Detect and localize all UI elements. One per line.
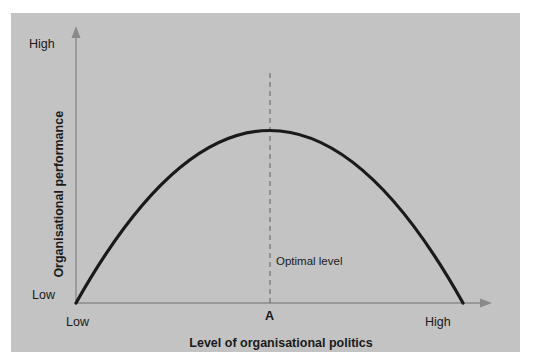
y-axis-low-label: Low — [32, 289, 55, 302]
chart-plot-area — [11, 13, 520, 352]
optimal-level-annotation: Optimal level — [276, 256, 342, 268]
optimal-point-label: A — [265, 310, 274, 323]
y-axis-title: Organisational performance — [53, 94, 66, 294]
x-axis-low-label: Low — [66, 316, 89, 329]
y-axis-high-label: High — [29, 38, 55, 51]
x-axis-title: Level of organisational politics — [161, 337, 401, 350]
y-axis-arrow-icon — [72, 26, 81, 38]
x-axis-arrow-icon — [480, 299, 492, 308]
figure-panel: High Low Low High A Optimal level Level … — [11, 13, 520, 352]
x-axis-high-label: High — [425, 316, 451, 329]
